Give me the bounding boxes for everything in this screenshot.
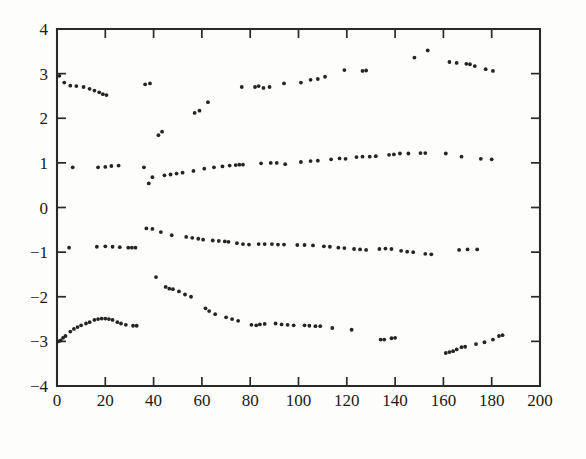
data-point [364, 248, 368, 252]
data-point [68, 330, 72, 334]
data-point [58, 74, 62, 78]
plot-border [57, 29, 540, 386]
data-point [309, 78, 313, 82]
x-tick-label-7: 140 [382, 391, 408, 410]
data-point [159, 230, 163, 234]
data-point [399, 249, 403, 253]
data-point [307, 324, 311, 328]
data-point [318, 324, 322, 328]
data-point [177, 289, 181, 293]
data-point [274, 322, 278, 326]
data-point [103, 244, 107, 248]
axis-frame [57, 29, 540, 386]
series-band-lower [56, 275, 504, 355]
data-point [270, 242, 274, 246]
data-point [316, 77, 320, 81]
data-point [299, 160, 303, 164]
data-point [303, 323, 307, 327]
data-point [88, 320, 92, 324]
data-point [374, 154, 378, 158]
data-point [241, 163, 245, 167]
data-point [124, 323, 128, 327]
data-point [280, 323, 284, 327]
data-point [292, 323, 296, 327]
data-point [240, 85, 244, 89]
data-point [336, 246, 340, 250]
data-point [390, 336, 394, 340]
data-point [144, 227, 148, 231]
data-point [423, 151, 427, 155]
data-point [93, 318, 97, 322]
data-point [62, 81, 66, 85]
data-point [175, 172, 179, 176]
data-point [355, 155, 359, 159]
data-point [207, 309, 211, 313]
data-point [154, 275, 158, 279]
data-point [93, 89, 97, 93]
data-point [109, 164, 113, 168]
data-point [378, 247, 382, 251]
data-point [201, 238, 205, 242]
data-point [150, 227, 154, 231]
data-point [103, 317, 107, 321]
data-point [352, 247, 356, 251]
data-point [444, 351, 448, 355]
data-point [316, 159, 320, 163]
data-point [196, 237, 200, 241]
data-point [491, 69, 495, 73]
data-point [97, 90, 101, 94]
data-point [189, 295, 193, 299]
data-point [171, 287, 175, 291]
data-point [406, 152, 410, 156]
data-point [466, 248, 470, 252]
data-point [181, 171, 185, 175]
y-tick-label-4: 0 [40, 199, 49, 218]
x-tick-label-6: 120 [334, 391, 360, 410]
data-point [224, 315, 228, 319]
data-point [282, 82, 286, 86]
data-point [211, 239, 215, 243]
data-point [303, 243, 307, 247]
data-point [398, 152, 402, 156]
data-point [358, 248, 362, 252]
data-point [190, 236, 194, 240]
data-point [71, 165, 75, 169]
data-point [101, 92, 105, 96]
data-point [111, 318, 115, 322]
data-point [235, 241, 239, 245]
y-tick-label-1: −3 [30, 332, 48, 351]
data-point [96, 165, 100, 169]
data-point [497, 334, 501, 338]
data-point [257, 242, 261, 246]
data-point [64, 334, 68, 338]
data-point [111, 245, 115, 249]
data-point [455, 348, 459, 352]
series-band-minus-one [67, 227, 479, 257]
data-point [309, 159, 313, 163]
data-point [150, 175, 154, 179]
data-point [135, 324, 139, 328]
data-point [463, 345, 467, 349]
data-point [328, 245, 332, 249]
data-point [84, 322, 88, 326]
data-point [451, 349, 455, 353]
data-point [387, 153, 391, 157]
data-point [192, 169, 196, 173]
data-point [247, 243, 251, 247]
data-point [148, 82, 152, 86]
data-point [193, 111, 197, 115]
data-point [217, 239, 221, 243]
data-point [350, 328, 354, 332]
data-point [405, 250, 409, 254]
data-point [263, 242, 267, 246]
data-point [131, 324, 135, 328]
data-point [119, 322, 123, 326]
series-band-one [71, 151, 494, 185]
y-tick-label-2: −2 [30, 288, 48, 307]
data-point [448, 350, 452, 354]
data-point [413, 56, 417, 60]
data-point [364, 69, 368, 73]
data-point [392, 153, 396, 157]
data-point [473, 64, 477, 68]
data-point [295, 243, 299, 247]
